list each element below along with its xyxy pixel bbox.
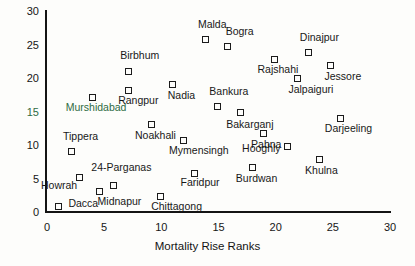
data-point-marker [169, 81, 176, 88]
data-point-marker [68, 148, 75, 155]
data-point-marker [327, 62, 334, 69]
x-tick-15: 15 [208, 222, 230, 233]
data-point-label: Jessore [325, 71, 362, 82]
data-point-label: Rajshahi [258, 64, 299, 75]
data-point-label: Chittagong [151, 201, 202, 212]
data-point-marker [271, 56, 278, 63]
data-point-marker [89, 94, 96, 101]
x-tick-5: 5 [93, 222, 115, 233]
data-point-label: Noakhali [135, 130, 176, 141]
data-point-marker [125, 68, 132, 75]
x-tick-0: 0 [36, 222, 58, 233]
y-tick-20: 20 [17, 73, 39, 84]
data-point-marker [180, 137, 187, 144]
data-point-label: Birbhum [120, 50, 159, 61]
y-tick-30: 30 [17, 6, 39, 17]
data-point-marker [305, 49, 312, 56]
data-point-label: Pabna [251, 139, 281, 150]
x-tick-25: 25 [322, 222, 344, 233]
x-axis-title: Mortality Rise Ranks [0, 240, 415, 252]
data-point-marker [316, 156, 323, 163]
data-point-marker [224, 43, 231, 50]
data-point-label: Bankura [209, 86, 248, 97]
data-point-marker [148, 121, 155, 128]
data-point-marker [284, 143, 291, 150]
data-point-label: Midnapur [98, 196, 142, 207]
data-point-label: Faridpur [180, 177, 219, 188]
data-point-label: Dacca [68, 198, 98, 209]
data-point-marker [294, 75, 301, 82]
y-tick-5: 5 [17, 174, 39, 185]
data-point-label: 24-Parganas [91, 162, 151, 173]
y-tick-10: 10 [17, 140, 39, 151]
data-point-label: Dinajpur [300, 32, 339, 43]
data-point-label: Malda [198, 19, 227, 30]
data-point-label: Bogra [226, 26, 254, 37]
data-point-label: Khulna [305, 165, 338, 176]
x-tick-30: 30 [379, 222, 401, 233]
data-point-label: Rangpur [118, 95, 158, 106]
data-point-marker [110, 182, 117, 189]
y-tick-25: 25 [17, 40, 39, 51]
data-point-label: Jalpaiguri [288, 84, 333, 95]
x-tick-10: 10 [150, 222, 172, 233]
data-point-label: Darjeeling [325, 123, 372, 134]
y-tick-0: 0 [17, 207, 39, 218]
data-point-marker [214, 103, 221, 110]
data-point-label: Nadia [168, 90, 195, 101]
data-point-marker [249, 164, 256, 171]
data-point-label: Mymensingh [169, 145, 229, 156]
x-tick-20: 20 [265, 222, 287, 233]
data-point-label: Burdwan [236, 173, 277, 184]
data-point-label: Bakarganj [226, 119, 273, 130]
data-point-marker [237, 109, 244, 116]
data-point-marker [337, 115, 344, 122]
data-point-label: Tippera [63, 131, 98, 142]
data-point-marker [260, 130, 267, 137]
y-tick-15: 15 [17, 107, 39, 118]
data-point-marker [202, 36, 209, 43]
scatter-plot-figure: 051015202530 051015202530 Mortality Rise… [0, 0, 415, 266]
data-point-label: Howrah [41, 180, 77, 191]
data-point-marker [55, 203, 62, 210]
data-point-marker [125, 87, 132, 94]
